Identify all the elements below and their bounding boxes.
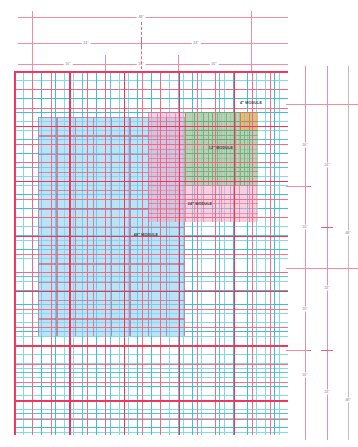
right-dim-label-48-b: 48" — [344, 398, 353, 403]
top-ext-line-d — [251, 11, 252, 73]
right-tick-c2-c — [321, 350, 333, 351]
right-leader-a — [286, 186, 308, 187]
top-ext-line-a — [32, 11, 33, 73]
right-dim-label-16-b: 16" — [301, 225, 310, 230]
right-tick-c2-b — [321, 227, 333, 228]
top-dim-label-16-c: 16" — [210, 62, 219, 67]
top-dim-label-24-right: 24" — [192, 41, 201, 46]
right-dim-label-16-a: 16" — [301, 143, 310, 148]
modular-grid-field: 48" MODULE 24" MODULE 12" MODULE 4" MODU… — [14, 71, 288, 435]
right-dim-line-col3 — [348, 66, 349, 440]
module-4-label: 4" MODULE — [240, 101, 262, 106]
right-leader-b — [286, 350, 308, 351]
right-dim-label-24-c: 24" — [323, 390, 332, 395]
module-48-label: 48" MODULE — [134, 233, 158, 238]
module-12-label: 12" MODULE — [209, 146, 233, 151]
top-dim-label-16-a: 16" — [64, 62, 73, 67]
right-dim-label-16-c: 16" — [301, 307, 310, 312]
top-dim-label-48: 48" — [137, 15, 146, 20]
right-dim-label-24-a: 24" — [323, 163, 332, 168]
right-dim-label-16-d: 16" — [301, 373, 310, 378]
top-centerline-dashed — [141, 22, 142, 74]
module-24-label: 24" MODULE — [188, 202, 212, 207]
top-dim-line-row1 — [18, 17, 288, 18]
right-leader-mid — [286, 268, 358, 269]
right-dim-label-48-a: 48" — [344, 231, 353, 236]
right-dim-line-col2 — [327, 66, 328, 440]
grid-layer-red-48in — [14, 71, 288, 435]
top-dim-line-row2 — [18, 43, 288, 44]
right-dim-line-col1 — [305, 66, 306, 440]
top-dim-label-24-left: 24" — [82, 41, 91, 46]
top-dim-line-row3 — [18, 64, 288, 65]
right-leader-top — [286, 104, 358, 105]
right-dim-label-24-b: 24" — [323, 286, 332, 291]
